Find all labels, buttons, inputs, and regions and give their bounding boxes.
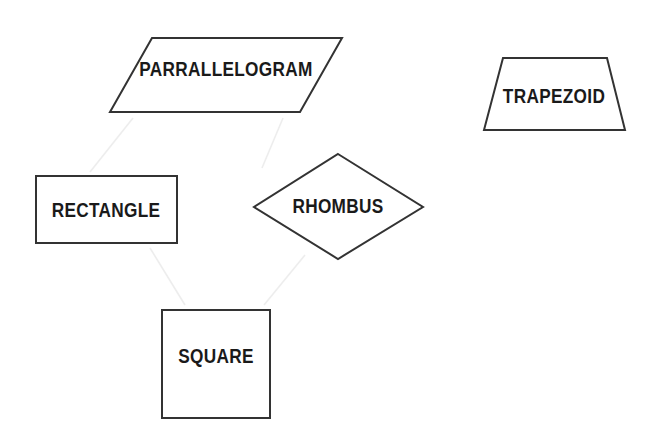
rhombus-label: RHOMBUS xyxy=(292,194,383,217)
square-label: SQUARE xyxy=(178,344,254,367)
connector-parallelogram-to-rhombus xyxy=(262,118,283,168)
parallelogram-label: PARRALLELOGRAM xyxy=(139,57,312,80)
rectangle-label: RECTANGLE xyxy=(52,198,161,221)
shape-square[interactable]: SQUARE xyxy=(162,310,270,418)
shapes-diagram-canvas: PARRALLELOGRAM TRAPEZOID RECTANGLE RHOMB… xyxy=(0,0,658,438)
shape-rectangle[interactable]: RECTANGLE xyxy=(36,176,177,243)
connector-parallelogram-to-rectangle xyxy=(90,118,133,172)
shape-trapezoid[interactable]: TRAPEZOID xyxy=(484,58,625,130)
connector-rhombus-to-square xyxy=(264,255,305,305)
shape-parallelogram[interactable]: PARRALLELOGRAM xyxy=(110,38,342,112)
shape-rhombus[interactable]: RHOMBUS xyxy=(254,154,423,259)
connector-rectangle-to-square xyxy=(150,248,185,305)
trapezoid-label: TRAPEZOID xyxy=(503,84,605,107)
